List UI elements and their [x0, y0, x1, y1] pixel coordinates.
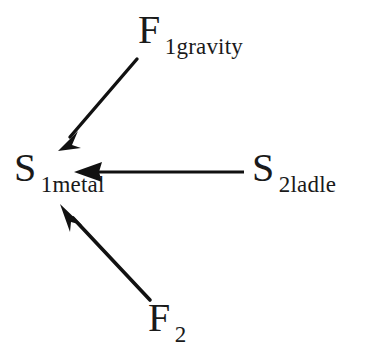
arrow-f2-head — [60, 204, 82, 232]
node-base-f2: F — [148, 295, 171, 340]
node-subscript-s1metal: 1metal — [41, 172, 105, 197]
node-base-f1gravity: F — [138, 7, 161, 52]
arrow-gravity-shaft — [70, 59, 137, 137]
node-subscript-f1gravity: 1gravity — [165, 34, 243, 59]
node-subscript-s2ladle: 2ladle — [279, 172, 336, 197]
node-label-s1metal: S1metal — [14, 148, 101, 188]
node-label-f2: F2 — [148, 298, 182, 338]
arrow-gravity — [58, 59, 137, 151]
node-label-f1gravity: F1gravity — [138, 10, 239, 50]
node-base-s1metal: S — [14, 145, 37, 190]
arrow-f2-shaft — [73, 218, 150, 300]
node-subscript-f2: 2 — [175, 322, 187, 347]
node-label-s2ladle: S2ladle — [252, 148, 332, 188]
diagram-canvas: F1gravity S1metal S2ladle F2 — [0, 0, 366, 360]
node-base-s2ladle: S — [252, 145, 275, 190]
arrow-f2 — [60, 204, 150, 300]
